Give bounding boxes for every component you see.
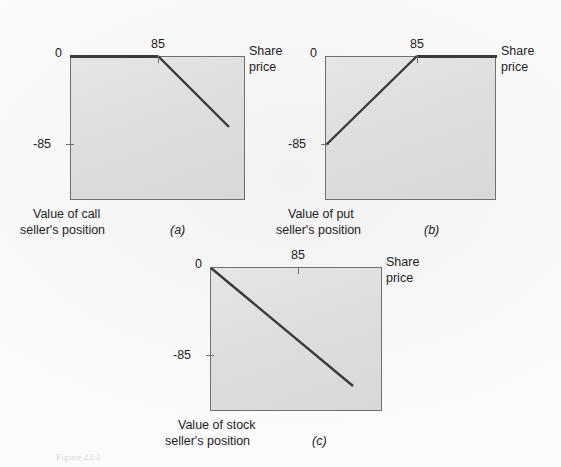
x-tick-85-c (298, 267, 299, 274)
y-tick-label-neg85-a: -85 (33, 137, 51, 151)
y-tick-label-0-c: 0 (195, 257, 202, 271)
panel-tag-c: (c) (312, 434, 327, 448)
x-tick-label-85-c: 85 (291, 248, 305, 262)
figure-caption: Figure 22.2 (56, 452, 101, 462)
x-axis-label-line2-a: price (249, 60, 276, 74)
panel-title-line1-c: Value of stock (178, 418, 256, 432)
figure-container: 85 0 -85 Share price Value of call selle… (0, 0, 561, 467)
x-axis-label-line2-b: price (501, 60, 528, 74)
panel-c: 85 0 -85 Share price Value of stock sell… (140, 240, 430, 455)
panel-title-line1-a: Value of call (33, 207, 100, 221)
y-tick-label-0-b: 0 (310, 46, 317, 60)
panel-title-line2-b: seller's position (276, 223, 361, 237)
x-tick-85-b (417, 56, 418, 63)
panel-title-line2-c: seller's position (165, 434, 250, 448)
x-axis-label-line1-b: Share (501, 44, 534, 58)
y-tick-neg85-b (321, 144, 329, 145)
y-tick-neg85-a (66, 144, 74, 145)
x-axis-label-line1-c: Share (386, 255, 419, 269)
x-axis-label-line2-c: price (386, 271, 413, 285)
x-axis-label-line1-a: Share (249, 44, 282, 58)
y-tick-label-0-a: 0 (55, 46, 62, 60)
panel-title-line1-b: Value of put (288, 207, 354, 221)
panel-tag-b: (b) (424, 223, 439, 237)
panel-tag-a: (a) (170, 223, 185, 237)
x-tick-label-85-b: 85 (410, 37, 424, 51)
panel-a: 85 0 -85 Share price Value of call selle… (0, 0, 290, 240)
panel-b: 85 0 -85 Share price Value of put seller… (290, 0, 561, 240)
payoff-line-b (290, 0, 561, 240)
panel-title-line2-a: seller's position (20, 223, 105, 237)
payoff-line-a (0, 0, 290, 240)
y-tick-label-neg85-c: -85 (173, 348, 191, 362)
y-tick-label-neg85-b: -85 (288, 137, 306, 151)
y-tick-neg85-c (206, 355, 214, 356)
x-tick-85-a (158, 56, 159, 63)
x-tick-label-85-a: 85 (151, 37, 165, 51)
